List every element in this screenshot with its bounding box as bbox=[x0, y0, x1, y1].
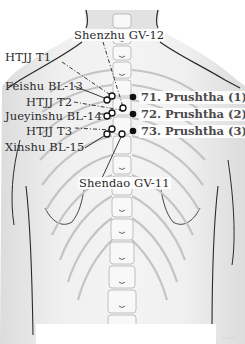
label-htjj-t1: HTJJ T1 bbox=[5, 51, 51, 63]
label-prushtha-3: 73. Prushtha (3) bbox=[139, 125, 245, 138]
label-htjj-t2: HTJJ T2 bbox=[26, 96, 72, 108]
bottom-margin bbox=[36, 324, 216, 344]
label-feishu-bl13: Feishu BL-13 bbox=[5, 80, 83, 92]
label-prushtha-1: 71. Prushtha (1) bbox=[139, 91, 245, 104]
label-prushtha-2: 72. Prushtha (2) bbox=[139, 108, 245, 121]
label-jueyinshu-bl14: Jueyinshu BL-14 bbox=[5, 110, 102, 122]
label-shenzhu-gv12: Shenzhu GV-12 bbox=[73, 29, 165, 41]
label-htjj-t3: HTJJ T3 bbox=[26, 125, 72, 137]
label-xinshu-bl15: Xinshu BL-15 bbox=[5, 141, 84, 153]
image-credit: · · · · bbox=[222, 334, 235, 341]
acupuncture-diagram: Shenzhu GV-12 HTJJ T1 Feishu BL-13 HTJJ … bbox=[0, 0, 245, 344]
label-shendao-gv11: Shendao GV-11 bbox=[78, 177, 171, 189]
